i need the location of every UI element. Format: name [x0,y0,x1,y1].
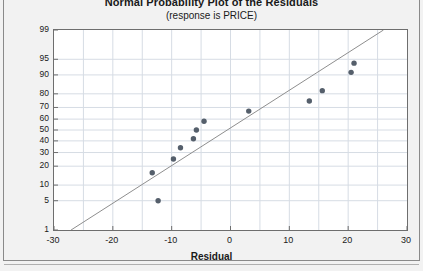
y-tick-label: 30 [27,147,49,157]
x-tick-label: -30 [38,235,68,245]
y-tick-label: 90 [27,69,49,79]
x-tick-label: -10 [156,235,186,245]
y-tick-label: 70 [27,101,49,111]
y-tick-label: 5 [27,195,49,205]
y-tick-label: 50 [27,124,49,134]
x-tick-label: 30 [391,235,421,245]
grid-lines [54,30,407,230]
y-tick-label: 40 [27,135,49,145]
x-tick-label: 10 [273,235,303,245]
plot-canvas [54,30,407,230]
figure-bottom-rule [4,264,419,265]
x-tick-label: 20 [332,235,362,245]
y-tick-label: 10 [27,179,49,189]
plot-area [53,29,408,231]
screenshot-root: Normal Probability Plot of the Residuals… [0,0,423,271]
y-tick-label: 20 [27,160,49,170]
y-tick-label: 60 [27,113,49,123]
y-tick-label: 1 [27,224,49,234]
chart-title: Normal Probability Plot of the Residuals [0,0,423,8]
data-point-series [150,60,357,203]
chart-subtitle: (response is PRICE) [0,10,423,21]
y-tick-label: 95 [27,53,49,63]
y-tick-label: 99 [27,24,49,34]
x-tick-label: -20 [97,235,127,245]
y-tick-label: 80 [27,88,49,98]
x-axis-title: Residual [0,251,423,262]
x-tick-label: 0 [215,235,245,245]
